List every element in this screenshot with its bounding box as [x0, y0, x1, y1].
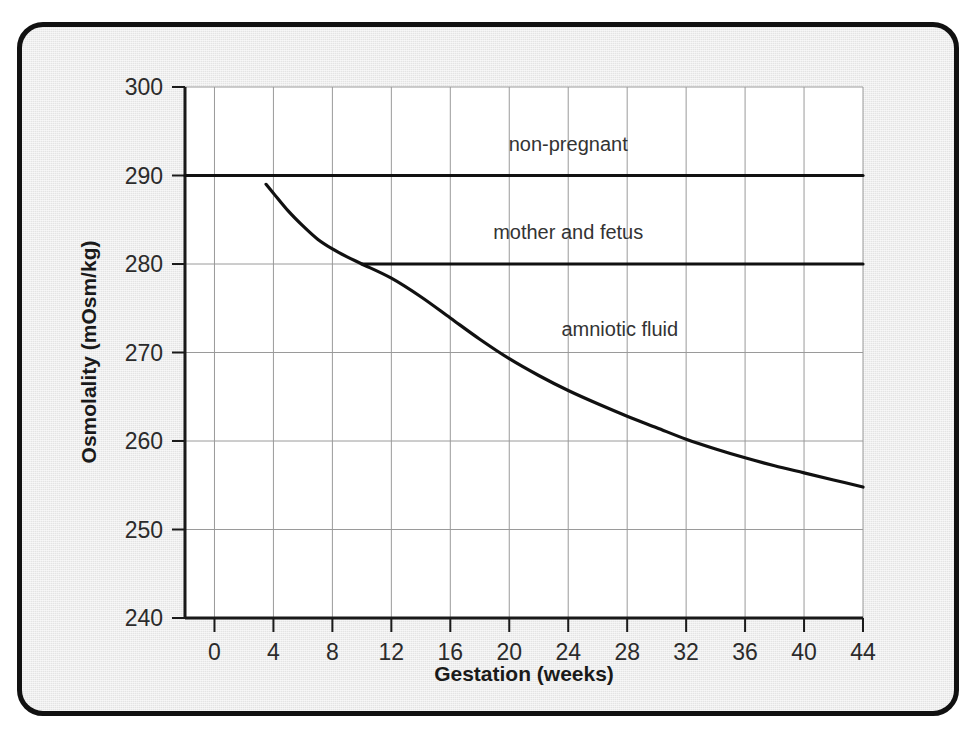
- x-tick-label-0: 0: [208, 639, 221, 665]
- x-tick-label-40: 40: [791, 639, 817, 665]
- y-tick-label-260: 260: [125, 428, 163, 454]
- y-tick-label-300: 300: [125, 74, 163, 100]
- y-tick-label-270: 270: [125, 340, 163, 366]
- x-tick-label-36: 36: [732, 639, 758, 665]
- y-axis-tick-labels: 240250260270280290300: [125, 74, 163, 631]
- x-axis-title: Gestation (weeks): [434, 662, 614, 685]
- series-label-non-pregnant: non-pregnant: [509, 133, 628, 155]
- x-tick-label-44: 44: [850, 639, 876, 665]
- x-tick-label-32: 32: [673, 639, 699, 665]
- x-tick-label-28: 28: [614, 639, 640, 665]
- y-axis-title: Osmolality (mOsm/kg): [77, 241, 100, 464]
- x-tick-label-8: 8: [326, 639, 339, 665]
- y-axis-ticks: [172, 87, 185, 618]
- y-tick-label-240: 240: [125, 605, 163, 631]
- series-label-amniotic-fluid: amniotic fluid: [561, 318, 678, 340]
- y-tick-label-250: 250: [125, 517, 163, 543]
- x-tick-label-12: 12: [379, 639, 405, 665]
- series-label-mother-and-fetus: mother and fetus: [493, 221, 643, 243]
- y-tick-label-280: 280: [125, 251, 163, 277]
- x-tick-label-4: 4: [267, 639, 280, 665]
- y-tick-label-290: 290: [125, 163, 163, 189]
- x-axis-ticks: [214, 618, 863, 632]
- osmolality-gestation-chart: 240250260270280290300 048121620242832364…: [0, 0, 976, 747]
- figure-page: 240250260270280290300 048121620242832364…: [0, 0, 976, 747]
